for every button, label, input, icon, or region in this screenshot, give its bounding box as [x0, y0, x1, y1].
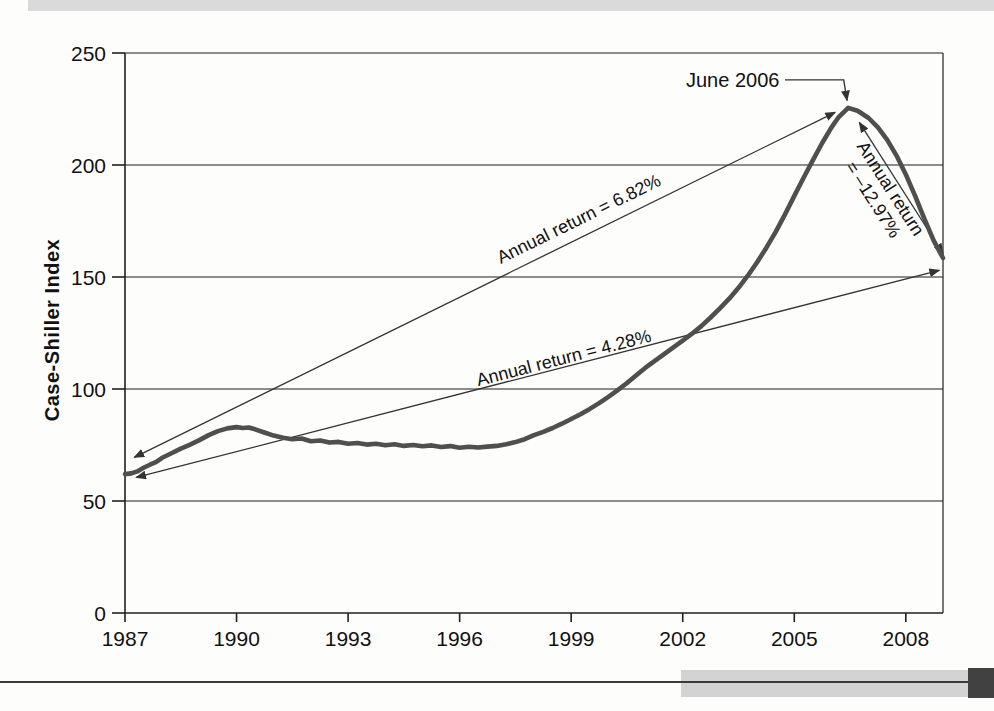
x-tick-label: 2002: [659, 627, 706, 650]
annotation-annual-return-428: Annual return = 4.28%: [474, 326, 653, 390]
bottom-rule-line: [0, 681, 968, 683]
y-tick-label: 250: [71, 42, 106, 65]
callout-label-june-2006: June 2006: [686, 69, 779, 91]
y-tick-label: 50: [83, 490, 106, 513]
y-axis-title: Case-Shiller Index: [41, 239, 64, 421]
bottom-accent-bar: [681, 670, 968, 697]
y-tick-label: 200: [71, 154, 106, 177]
x-tick-label: 1993: [325, 627, 372, 650]
x-tick-label: 2008: [882, 627, 929, 650]
chart-canvas: 0501001502002501987199019931996199920022…: [0, 0, 994, 711]
corner-block: [968, 668, 994, 698]
case-shiller-chart: 0501001502002501987199019931996199920022…: [0, 0, 994, 711]
y-tick-label: 150: [71, 266, 106, 289]
y-tick-label: 0: [94, 602, 106, 625]
annotation-annual-return-682: Annual return = 6.82%: [494, 170, 664, 267]
callout-connector: [785, 80, 847, 101]
curve-case-shiller-index: [125, 108, 943, 474]
arrow-return-682: [134, 112, 835, 457]
x-tick-label: 1990: [213, 627, 260, 650]
y-tick-label: 100: [71, 378, 106, 401]
x-tick-label: 2005: [771, 627, 818, 650]
x-tick-label: 1987: [102, 627, 149, 650]
x-tick-label: 1996: [436, 627, 483, 650]
x-tick-label: 1999: [548, 627, 595, 650]
